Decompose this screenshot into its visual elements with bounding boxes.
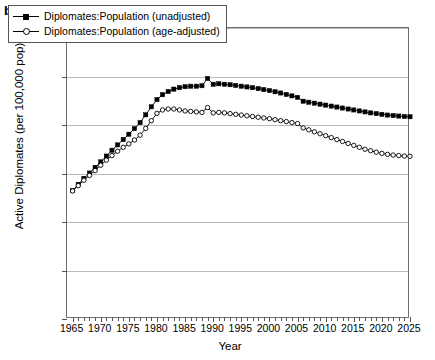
data-point-open-circle-icon: [357, 145, 361, 149]
data-point-open-circle-icon: [82, 178, 86, 182]
data-point-open-circle-icon: [149, 118, 153, 122]
data-point-filled-square-icon: [205, 76, 209, 80]
data-point-filled-square-icon: [295, 95, 299, 99]
data-point-filled-square-icon: [104, 154, 108, 158]
data-point-open-circle-icon: [267, 116, 271, 120]
data-point-filled-square-icon: [312, 101, 316, 105]
data-point-open-circle-icon: [346, 141, 350, 145]
data-point-open-circle-icon: [115, 149, 119, 153]
data-point-filled-square-icon: [211, 82, 215, 86]
data-point-filled-square-icon: [273, 90, 277, 94]
data-point-filled-square-icon: [329, 104, 333, 108]
data-point-open-circle-icon: [318, 132, 322, 136]
y-axis-label: Active Diplomates (per 100,000 pop): [13, 31, 25, 241]
x-tick-label: 2025: [389, 322, 429, 334]
data-point-open-circle-icon: [301, 126, 305, 130]
legend-item-unadjusted: Diplomates:Population (unadjusted): [13, 9, 220, 24]
data-point-open-circle-icon: [121, 145, 125, 149]
data-point-filled-square-icon: [346, 107, 350, 111]
data-point-open-circle-icon: [278, 118, 282, 122]
data-point-open-circle-icon: [363, 147, 367, 151]
data-point-open-circle-icon: [245, 114, 249, 118]
data-point-open-circle-icon: [99, 163, 103, 167]
data-point-filled-square-icon: [279, 91, 283, 95]
data-point-open-circle-icon: [155, 111, 159, 115]
data-point-filled-square-icon: [132, 127, 136, 131]
data-point-filled-square-icon: [177, 86, 181, 90]
chart-panel: b Active Diplomates (per 100,000 pop) Ye…: [0, 0, 435, 360]
data-point-open-circle-icon: [222, 111, 226, 115]
data-point-open-circle-icon: [183, 109, 187, 113]
data-point-filled-square-icon: [267, 88, 271, 92]
data-point-filled-square-icon: [127, 132, 131, 136]
data-point-filled-square-icon: [363, 110, 367, 114]
data-point-filled-square-icon: [234, 83, 238, 87]
data-point-filled-square-icon: [239, 84, 243, 88]
data-point-open-circle-icon: [380, 151, 384, 155]
data-point-open-circle-icon: [295, 121, 299, 125]
data-point-open-circle-icon: [290, 120, 294, 124]
data-point-open-circle-icon: [127, 142, 131, 146]
data-point-filled-square-icon: [149, 105, 153, 109]
data-point-open-circle-icon: [205, 105, 209, 109]
data-point-open-circle-icon: [211, 111, 215, 115]
data-point-filled-square-icon: [369, 111, 373, 115]
data-point-filled-square-icon: [402, 114, 406, 118]
legend-label-age-adjusted: Diplomates:Population (age-adjusted): [44, 24, 220, 39]
data-point-open-circle-icon: [110, 153, 114, 157]
data-point-open-circle-icon: [166, 107, 170, 111]
data-point-filled-square-icon: [250, 86, 254, 90]
data-point-open-circle-icon: [200, 110, 204, 114]
data-point-open-circle-icon: [368, 149, 372, 153]
data-point-filled-square-icon: [172, 87, 176, 91]
data-point-filled-square-icon: [155, 97, 159, 101]
data-point-open-circle-icon: [250, 114, 254, 118]
data-point-filled-square-icon: [194, 84, 198, 88]
data-point-filled-square-icon: [189, 84, 193, 88]
data-point-open-circle-icon: [189, 109, 193, 113]
data-point-open-circle-icon: [312, 130, 316, 134]
data-point-open-circle-icon: [239, 113, 243, 117]
legend-label-unadjusted: Diplomates:Population (unadjusted): [44, 9, 210, 24]
data-point-open-circle-icon: [228, 111, 232, 115]
data-point-open-circle-icon: [76, 183, 80, 187]
data-point-open-circle-icon: [307, 128, 311, 132]
data-point-filled-square-icon: [160, 93, 164, 97]
data-point-filled-square-icon: [217, 82, 221, 86]
y-tick: [62, 319, 67, 320]
legend: Diplomates:Population (unadjusted) Diplo…: [8, 5, 227, 43]
plot-area: [66, 27, 409, 318]
data-point-open-circle-icon: [144, 126, 148, 130]
data-point-open-circle-icon: [385, 152, 389, 156]
data-point-filled-square-icon: [318, 102, 322, 106]
data-point-filled-square-icon: [183, 85, 187, 89]
data-point-open-circle-icon: [132, 138, 136, 142]
data-point-open-circle-icon: [217, 110, 221, 114]
legend-marker-open-circle-icon: [13, 26, 39, 37]
data-point-open-circle-icon: [70, 189, 74, 193]
x-axis-label: Year: [50, 340, 410, 352]
data-point-filled-square-icon: [335, 105, 339, 109]
data-point-filled-square-icon: [121, 137, 125, 141]
data-point-filled-square-icon: [138, 120, 142, 124]
data-point-open-circle-icon: [138, 133, 142, 137]
data-point-open-circle-icon: [256, 115, 260, 119]
data-point-filled-square-icon: [391, 113, 395, 117]
data-point-filled-square-icon: [262, 87, 266, 91]
data-point-open-circle-icon: [329, 135, 333, 139]
data-point-filled-square-icon: [374, 112, 378, 116]
legend-item-age-adjusted: Diplomates:Population (age-adjusted): [13, 24, 220, 39]
data-point-filled-square-icon: [144, 113, 148, 117]
data-point-open-circle-icon: [104, 158, 108, 162]
data-point-filled-square-icon: [284, 92, 288, 96]
data-point-filled-square-icon: [307, 100, 311, 104]
legend-marker-filled-square-icon: [13, 11, 39, 22]
data-point-open-circle-icon: [391, 153, 395, 157]
data-point-open-circle-icon: [408, 154, 412, 158]
data-series-layer: [67, 28, 410, 319]
data-point-open-circle-icon: [340, 139, 344, 143]
data-point-open-circle-icon: [177, 108, 181, 112]
data-point-filled-square-icon: [352, 108, 356, 112]
data-point-filled-square-icon: [380, 112, 384, 116]
series-line: [73, 78, 410, 190]
